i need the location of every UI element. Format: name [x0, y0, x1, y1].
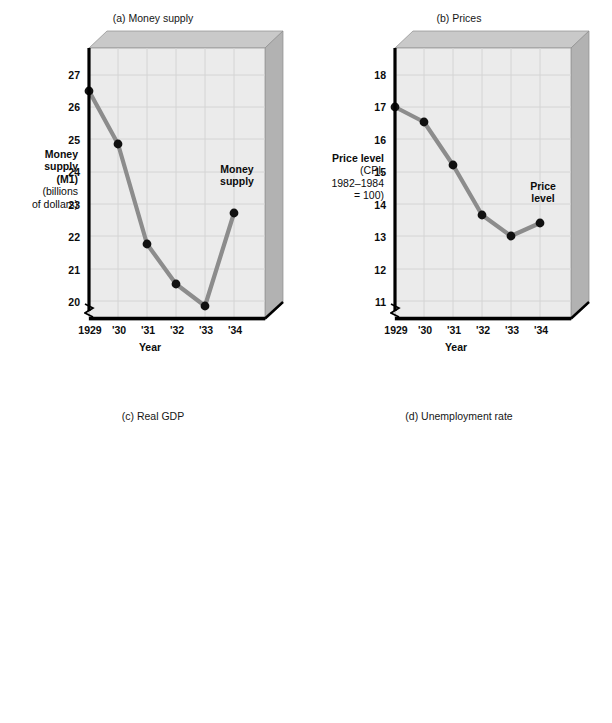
- y-axis-title-line: (billions: [42, 185, 78, 197]
- y-tick-label: 26: [52, 101, 80, 113]
- y-tick-label: 12: [358, 264, 386, 276]
- y-tick-label: 18: [358, 69, 386, 81]
- y-tick-label: 21: [52, 264, 80, 276]
- series-label-line: Price: [514, 180, 572, 192]
- series-label-line: supply: [207, 175, 267, 187]
- y-tick-label: 24: [52, 166, 80, 178]
- panel-unemployment-rate: (d) Unemployment rate Unemployment rate …: [306, 362, 612, 723]
- y-axis-title-line: Price level: [332, 152, 384, 164]
- plot-area: [390, 28, 590, 328]
- y-tick-label: 22: [52, 231, 80, 243]
- y-tick-label: 27: [52, 69, 80, 81]
- y-tick-label: 23: [52, 199, 80, 211]
- panel-title: (a) Money supply: [0, 12, 306, 24]
- series-label-line: Money: [207, 163, 267, 175]
- panel-title: (c) Real GDP: [0, 410, 306, 422]
- panel-prices: (b) Prices Price level (CPI, 1982–1984 =…: [306, 0, 612, 362]
- y-axis-title-line: 1982–1984: [331, 177, 384, 189]
- y-tick-label: 25: [52, 134, 80, 146]
- series-label-line: level: [514, 192, 572, 204]
- x-axis-label: Year: [426, 341, 486, 353]
- panel-title: (b) Prices: [306, 12, 612, 24]
- y-tick-label: 13: [358, 231, 386, 243]
- series-label: Money supply: [207, 163, 267, 187]
- y-axis-title-line: Money: [45, 148, 78, 160]
- x-axis-label: Year: [120, 341, 180, 353]
- y-tick-label: 16: [358, 134, 386, 146]
- y-tick-label: 11: [358, 296, 386, 308]
- y-tick-label: 15: [358, 166, 386, 178]
- x-tick-label: '34: [215, 324, 255, 336]
- x-tick-label: '34: [521, 324, 561, 336]
- y-tick-label: 20: [52, 296, 80, 308]
- panel-money-supply: (a) Money supply Money supply (M1) (bill…: [0, 0, 306, 362]
- figure-canvas: (a) Money supply Money supply (M1) (bill…: [0, 0, 612, 723]
- y-tick-label: 14: [358, 199, 386, 211]
- series-label: Price level: [514, 180, 572, 204]
- panel-real-gdp: (c) Real GDP Real GDP (billions of 1987 …: [0, 362, 306, 723]
- panel-title: (d) Unemployment rate: [306, 410, 612, 422]
- y-tick-label: 17: [358, 101, 386, 113]
